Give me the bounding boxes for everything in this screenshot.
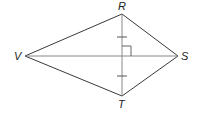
right-angle-marker	[122, 46, 131, 56]
label-t: T	[118, 98, 126, 110]
kite-diagram: R S T V	[0, 0, 198, 115]
label-v: V	[14, 50, 23, 62]
kite-outline	[25, 14, 178, 96]
label-s: S	[181, 50, 189, 62]
label-r: R	[118, 0, 126, 12]
